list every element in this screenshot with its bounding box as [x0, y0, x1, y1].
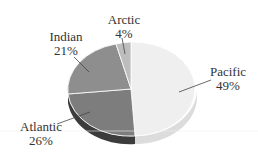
label-arctic: Arctic 4% — [102, 13, 146, 41]
label-atlantic: Atlantic 26% — [16, 120, 66, 148]
slice-atlantic — [68, 89, 135, 136]
label-indian: Indian 21% — [44, 30, 88, 58]
label-pacific: Pacific 49% — [203, 65, 253, 93]
